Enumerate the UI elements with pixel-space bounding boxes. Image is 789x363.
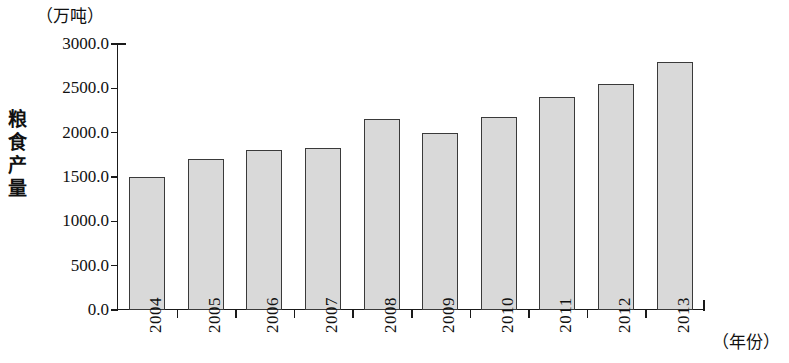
x-axis-title: （年份） <box>712 328 780 353</box>
bar-slot <box>528 44 587 310</box>
bar-slot <box>235 44 294 310</box>
y-axis-title-char: 量 <box>6 177 28 200</box>
x-axis-tick-label: 2010 <box>499 297 516 333</box>
y-axis-tick-label: 0.0 <box>33 301 109 318</box>
bar <box>246 150 282 310</box>
bar-slot <box>587 44 646 310</box>
y-axis-tick-label: 1000.0 <box>33 212 109 229</box>
y-axis-tick-label: 1500.0 <box>33 168 109 185</box>
bar <box>305 148 341 310</box>
x-axis-tick-label: 2011 <box>557 297 574 332</box>
bar <box>539 97 575 310</box>
x-axis-label-slot: 2004 <box>118 313 177 363</box>
y-axis-tick-label: 3000.0 <box>33 35 109 52</box>
bar <box>188 159 224 310</box>
grain-output-bar-chart: （万吨） 粮食产量 3000.02500.02000.01500.01000.0… <box>0 0 789 363</box>
y-axis-tick-label: 2500.0 <box>33 79 109 96</box>
x-axis-tick-label: 2006 <box>264 297 281 333</box>
x-axis-label-slot: 2011 <box>528 313 587 363</box>
bar <box>481 117 517 310</box>
y-axis-tick-labels: 3000.02500.02000.01500.01000.0500.00.0 <box>33 0 109 363</box>
x-axis-label-slot: 2008 <box>352 313 411 363</box>
bar-slot <box>118 44 177 310</box>
bar-slot <box>177 44 236 310</box>
bar <box>657 62 693 310</box>
y-axis-title-char: 食 <box>6 131 28 154</box>
y-axis-title-char: 粮 <box>6 108 28 131</box>
x-axis-tick-labels: 2004200520062007200820092010201120122013 <box>118 313 704 363</box>
x-axis-tick-label: 2005 <box>206 297 223 333</box>
x-axis-label-slot: 2013 <box>645 313 704 363</box>
x-axis-label-slot: 2006 <box>235 313 294 363</box>
y-axis-title: 粮食产量 <box>6 108 28 200</box>
bar <box>364 119 400 310</box>
bar-slot <box>411 44 470 310</box>
x-axis-tick-label: 2012 <box>616 297 633 333</box>
x-axis-label-slot: 2009 <box>411 313 470 363</box>
x-axis-tick-label: 2009 <box>440 297 457 333</box>
bar <box>598 84 634 310</box>
x-axis-label-slot: 2012 <box>587 313 646 363</box>
x-axis-tick-label: 2013 <box>675 297 692 333</box>
bar-slot <box>645 44 704 310</box>
bar-slot <box>294 44 353 310</box>
y-axis-tick-label: 2000.0 <box>33 124 109 141</box>
x-axis-label-slot: 2007 <box>294 313 353 363</box>
bar-slot <box>352 44 411 310</box>
x-axis-tick-label: 2007 <box>323 297 340 333</box>
x-axis-tick-label: 2004 <box>147 297 164 333</box>
x-axis-tick-label: 2008 <box>382 297 399 333</box>
bar <box>422 133 458 310</box>
x-axis-label-slot: 2010 <box>470 313 529 363</box>
y-axis-tick-label: 500.0 <box>33 257 109 274</box>
y-axis-title-char: 产 <box>6 154 28 177</box>
bar <box>129 177 165 310</box>
bar-slot <box>470 44 529 310</box>
x-axis-label-slot: 2005 <box>177 313 236 363</box>
bar-series <box>118 44 704 310</box>
